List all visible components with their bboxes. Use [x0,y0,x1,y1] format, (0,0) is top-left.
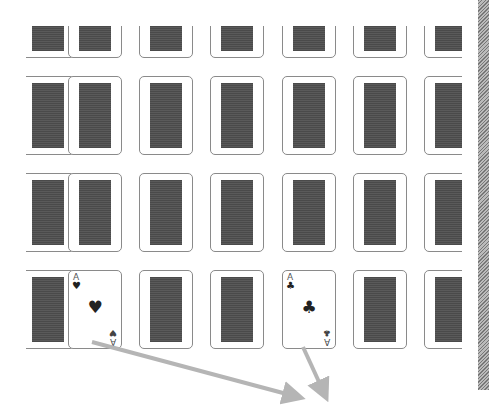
vertical-scrollbar[interactable] [478,0,489,390]
card-back-pattern [293,26,325,51]
card-back-pattern [221,180,253,245]
clubs-icon: ♣ [283,297,335,317]
card-back-pattern [364,83,396,148]
card-back-pattern [221,83,253,148]
card-back-pattern [150,83,182,148]
card-face-down[interactable] [424,270,462,349]
card-face-down[interactable] [353,173,407,252]
card-corner-index: A ♥ [109,328,117,346]
hearts-icon: ♥ [69,297,121,317]
card-face-down[interactable] [68,173,122,252]
card-face-down[interactable] [424,173,462,252]
card-back-pattern [435,277,462,342]
card-face-down[interactable] [353,26,407,58]
card-back-pattern [150,180,182,245]
card-face-down[interactable] [68,26,122,58]
card-face-up-a-clubs[interactable]: A♣♣A ♣ [282,270,336,349]
card-back-pattern [32,83,64,148]
card-face-down[interactable] [353,270,407,349]
card-face-up-a-hearts[interactable]: A♥♥A ♥ [68,270,122,349]
card-face-down[interactable] [210,76,264,155]
card-corner-index: A ♣ [323,328,331,346]
card-back-pattern [293,180,325,245]
card-back-pattern [32,26,64,51]
card-back-pattern [435,26,462,51]
card-face-down[interactable] [424,26,462,58]
card-back-pattern [32,180,64,245]
card-face-down[interactable] [68,76,122,155]
card-back-pattern [293,83,325,148]
card-grid: A♥♥A ♥A♣♣A ♣ [26,26,462,405]
card-face-down[interactable] [282,173,336,252]
card-back-pattern [79,83,111,148]
card-back-pattern [435,83,462,148]
card-face-down[interactable] [282,26,336,58]
card-face-down[interactable] [139,76,193,155]
card-face-down[interactable] [139,26,193,58]
card-back-pattern [364,180,396,245]
card-back-pattern [150,26,182,51]
card-face-down[interactable] [210,26,264,58]
card-back-pattern [221,277,253,342]
card-back-pattern [435,180,462,245]
card-back-pattern [79,26,111,51]
card-face-down[interactable] [139,270,193,349]
card-face-down[interactable] [424,76,462,155]
card-back-pattern [364,26,396,51]
card-back-pattern [221,26,253,51]
card-face-down[interactable] [210,173,264,252]
card-face-down[interactable] [139,173,193,252]
card-back-pattern [364,277,396,342]
hearts-icon: ♥ [72,281,81,291]
card-back-pattern [32,277,64,342]
clubs-icon: ♣ [286,281,295,291]
card-face-down[interactable] [282,76,336,155]
card-back-pattern [79,180,111,245]
card-face-down[interactable] [210,270,264,349]
card-back-pattern [150,277,182,342]
card-face-down[interactable] [353,76,407,155]
